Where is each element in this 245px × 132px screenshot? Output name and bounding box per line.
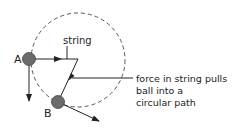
string-arrow-a-icon	[54, 56, 62, 62]
circular-motion-diagram: A B string force in string pulls ball in…	[0, 0, 245, 132]
force-label-line1: force in string pulls	[136, 73, 227, 84]
ball-a	[23, 53, 36, 66]
force-label-line2: ball into a	[136, 85, 183, 96]
string-segment-b	[58, 59, 78, 102]
force-label-line3: circular path	[136, 97, 196, 108]
ball-b	[52, 96, 65, 109]
label-ball-a: A	[14, 53, 22, 66]
label-string: string	[63, 35, 92, 46]
label-ball-b: B	[44, 107, 52, 120]
